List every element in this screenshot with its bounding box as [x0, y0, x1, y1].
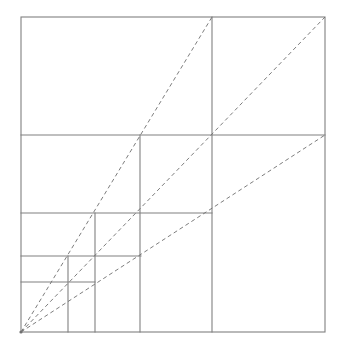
- ray-origin-corner: [19, 330, 22, 333]
- diagram-canvas: [0, 0, 342, 354]
- geometric-figure: [0, 0, 342, 354]
